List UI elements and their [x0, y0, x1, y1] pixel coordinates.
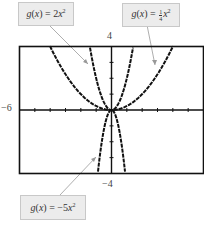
- plot-area: [20, 46, 204, 173]
- label-text: g(x) = 2x2: [26, 8, 65, 19]
- label-text: g(x) = −5x2: [31, 202, 76, 213]
- leader-line-quarter-x2: [147, 25, 155, 65]
- y-max-label: 4: [107, 30, 112, 41]
- graph-canvas: [0, 0, 204, 228]
- leader-line-2x2: [48, 24, 88, 64]
- y-min-label: −4: [102, 178, 113, 189]
- label-neg5x-squared: g(x) = −5x2: [20, 195, 86, 220]
- x-min-label: −6: [1, 102, 12, 113]
- label-quarter-x-squared: g(x) = 14x2: [122, 3, 180, 27]
- leader-line-neg5x2: [60, 157, 96, 195]
- label-2x-squared: g(x) = 2x2: [18, 2, 74, 26]
- label-text: g(x) = 14x2: [131, 8, 170, 22]
